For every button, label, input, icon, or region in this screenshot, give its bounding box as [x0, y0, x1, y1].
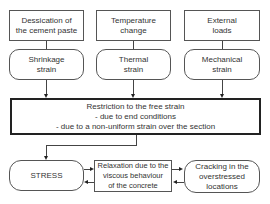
arrow-left-icon	[84, 180, 88, 184]
cause-label: External loads	[207, 16, 236, 36]
connector-line	[136, 135, 137, 145]
arrow-left-icon	[173, 180, 177, 184]
connector-line	[222, 41, 223, 49]
restriction-line-2: - due to a non-uniform strain over the s…	[56, 122, 215, 132]
restriction-line-1: - due to end conditions	[95, 112, 176, 122]
connector-line	[133, 41, 134, 49]
stress-label: STRESS	[30, 171, 62, 181]
restriction-box: Restriction to the free strain - due to …	[10, 98, 261, 135]
strain-box-thermal: Thermal strain	[96, 49, 171, 80]
arrow-right-icon	[179, 167, 183, 171]
arrow-line	[222, 80, 223, 95]
relaxation-label: Relaxation due to the viscous behaviour …	[98, 161, 169, 191]
strain-box-shrinkage: Shrinkage strain	[9, 49, 84, 80]
cause-label: Dessication of the cement paste	[16, 16, 77, 36]
strain-label: Thermal strain	[119, 55, 148, 75]
arrow-line	[46, 80, 47, 95]
cracking-box: Cracking in the overstressed locations	[184, 160, 260, 193]
strain-label: Shrinkage strain	[28, 55, 64, 75]
stress-box: STRESS	[9, 160, 84, 191]
cause-label: Temperature change	[111, 16, 156, 36]
connector-line	[46, 145, 137, 146]
restriction-title: Restriction to the free strain	[87, 102, 185, 112]
strain-box-mechanical: Mechanical strain	[184, 49, 260, 80]
cause-box-dessication: Dessication of the cement paste	[9, 10, 84, 41]
cause-box-external-loads: External loads	[184, 10, 260, 41]
cause-box-temperature: Temperature change	[96, 10, 171, 41]
arrow-line	[133, 80, 134, 95]
connector-line	[46, 41, 47, 49]
strain-label: Mechanical strain	[202, 55, 242, 75]
cracking-label: Cracking in the overstressed locations	[195, 162, 248, 192]
relaxation-box: Relaxation due to the viscous behaviour …	[94, 160, 172, 192]
